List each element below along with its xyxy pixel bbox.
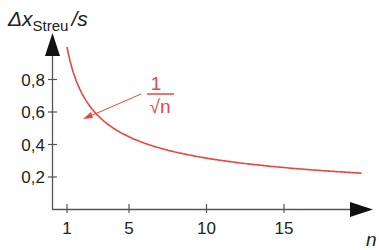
x-axis-arrow-icon (350, 202, 373, 217)
x-tick-label: 15 (275, 219, 294, 238)
annotation-arrow-icon (83, 112, 93, 119)
annotation-denominator: √n (150, 96, 171, 117)
annotation-pointer-line (88, 94, 141, 117)
y-axis-title-unit: /s (69, 7, 88, 30)
y-axis-arrow-icon (45, 33, 60, 56)
annotation-numerator: 1 (151, 73, 162, 94)
x-tick-label: 10 (197, 219, 216, 238)
y-ticks: 0,20,40,60,8 (21, 71, 57, 188)
y-tick-label: 0,6 (21, 103, 45, 122)
x-tick-label: 5 (124, 219, 133, 238)
y-tick-label: 0,4 (21, 136, 45, 155)
x-tick-label: 1 (62, 219, 71, 238)
y-axis-title: ΔxStreu/s (7, 7, 88, 34)
y-axis-title-sub: Streu (33, 17, 69, 34)
y-tick-label: 0,2 (21, 168, 45, 187)
y-tick-label: 0,8 (21, 71, 45, 90)
x-axis-title: n (366, 229, 377, 250)
y-axis-title-main: Δx (7, 7, 34, 30)
curve-annotation: 1 √n (83, 73, 174, 119)
series-line-inverse-sqrt (67, 47, 362, 173)
axes (45, 33, 373, 217)
chart-canvas: ΔxStreu/s 0,20,40,60,8 151015 n 1 √n (0, 0, 379, 250)
